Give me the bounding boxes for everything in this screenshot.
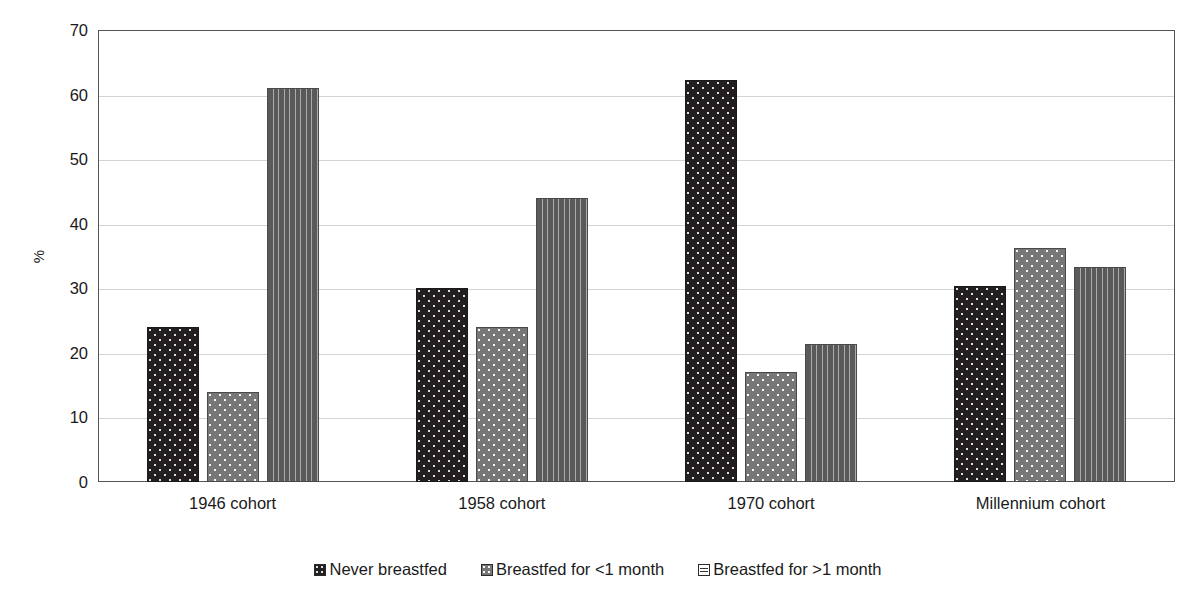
bar (207, 392, 259, 482)
x-axis-category-label: 1958 cohort (367, 494, 636, 513)
bar (745, 372, 797, 482)
bar (536, 198, 588, 482)
bar (685, 80, 737, 482)
y-axis-tick-label: 40 (26, 216, 88, 233)
legend: Never breastfedBreastfed for <1 monthBre… (0, 560, 1196, 579)
legend-swatch-icon (481, 564, 493, 576)
legend-item[interactable]: Breastfed for >1 month (698, 560, 881, 579)
legend-item[interactable]: Breastfed for <1 month (481, 560, 664, 579)
bar (1074, 267, 1126, 482)
y-axis-tick-label: 50 (26, 151, 88, 168)
bar-chart: % 706050403020100 1946 cohort1958 cohort… (0, 0, 1196, 615)
y-axis-tick-label: 0 (26, 474, 88, 491)
y-axis-tick-label: 10 (26, 409, 88, 426)
bar (147, 327, 199, 482)
legend-swatch-icon (314, 564, 326, 576)
y-axis-tick-label: 20 (26, 345, 88, 362)
legend-swatch-icon (698, 564, 710, 576)
y-axis-tick-label: 30 (26, 280, 88, 297)
x-axis-category-label: Millennium cohort (906, 494, 1175, 513)
bar (954, 286, 1006, 482)
legend-label: Breastfed for <1 month (496, 560, 664, 579)
bars-layer (98, 30, 1175, 482)
y-axis-title: % (30, 237, 47, 277)
bar (1014, 248, 1066, 482)
legend-label: Never breastfed (329, 560, 446, 579)
x-axis-category-label: 1970 cohort (637, 494, 906, 513)
bar (416, 288, 468, 482)
bar (267, 88, 319, 482)
legend-label: Breastfed for >1 month (713, 560, 881, 579)
y-axis-tick-label: 70 (26, 22, 88, 39)
x-axis-category-label: 1946 cohort (98, 494, 367, 513)
legend-item[interactable]: Never breastfed (314, 560, 446, 579)
bar (476, 327, 528, 482)
bar (805, 344, 857, 482)
y-axis-tick-label: 60 (26, 87, 88, 104)
